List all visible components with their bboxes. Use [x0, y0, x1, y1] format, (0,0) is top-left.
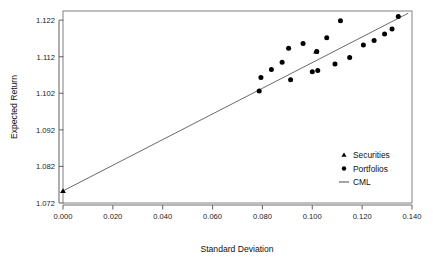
portfolio-point	[269, 67, 274, 72]
chart-container: 0.0000.0200.0400.0600.0800.1000.1200.140…	[0, 0, 433, 263]
portfolio-point	[314, 49, 319, 54]
x-axis-title: Standard Deviation	[200, 244, 273, 254]
y-tick-label: 1.072	[36, 199, 55, 208]
x-tick-label: 0.140	[402, 212, 421, 221]
x-tick-label: 0.060	[203, 212, 222, 221]
portfolio-point	[382, 32, 387, 37]
legend-label: CML	[353, 177, 371, 187]
legend-label: Securities	[353, 150, 390, 160]
x-tick-label: 0.100	[303, 212, 322, 221]
portfolio-point	[332, 62, 337, 67]
plot-frame	[63, 11, 412, 203]
x-axis: 0.0000.0200.0400.0600.0800.1000.1200.140	[53, 205, 421, 221]
plot-border	[63, 11, 412, 203]
legend-triangle-icon	[341, 153, 346, 157]
portfolio-point	[390, 26, 395, 31]
y-tick-label: 1.112	[37, 53, 55, 62]
legend-circle-icon	[342, 166, 346, 170]
portfolio-point	[301, 41, 306, 46]
y-tick-label: 1.082	[36, 162, 55, 171]
portfolio-point	[286, 46, 291, 51]
x-tick-label: 0.120	[353, 212, 372, 221]
y-axis-title: Expected Return	[9, 75, 19, 139]
x-tick-label: 0.040	[153, 212, 172, 221]
portfolio-point	[310, 69, 315, 74]
y-tick-label: 1.092	[36, 126, 55, 135]
x-tick-label: 0.020	[103, 212, 122, 221]
y-axis: 1.0721.0821.0921.1021.1121.122	[36, 16, 64, 208]
portfolio-point	[347, 55, 352, 60]
y-tick-label: 1.102	[36, 89, 55, 98]
portfolio-point	[258, 75, 263, 80]
legend-label: Portfolios	[353, 164, 388, 174]
portfolio-point	[324, 35, 329, 40]
portfolio-point	[396, 14, 401, 19]
portfolio-point	[338, 18, 343, 23]
portfolio-point	[280, 60, 285, 65]
legend: SecuritiesPortfoliosCML	[339, 150, 390, 187]
portfolio-point	[361, 43, 366, 48]
security-point	[60, 188, 66, 193]
portfolio-point	[315, 68, 320, 73]
portfolio-point	[372, 38, 377, 43]
y-tick-label: 1.122	[36, 16, 55, 25]
scatter-plot: 0.0000.0200.0400.0600.0800.1000.1200.140…	[0, 0, 433, 263]
portfolio-point	[257, 89, 262, 94]
x-tick-label: 0.080	[253, 212, 272, 221]
x-tick-label: 0.000	[53, 212, 72, 221]
portfolio-point	[288, 77, 293, 82]
